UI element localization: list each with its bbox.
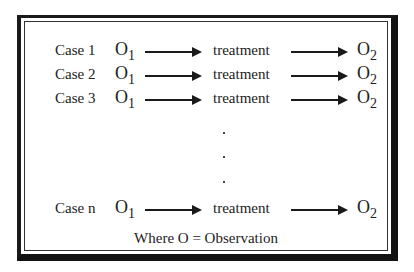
case-row-n: Case n O1 treatment O2 [25,200,387,222]
arrow-icon [291,209,346,211]
post-observation: O2 [357,87,377,112]
arrow-icon [145,75,200,77]
arrow-icon [145,209,200,211]
diagram-frame: Case 1 O1 treatment O2 Case 2 O1 treatme… [17,15,398,261]
case-row-2: Case 2 O1 treatment O2 [25,66,387,88]
treatment-label: treatment [213,42,270,59]
case-label: Case 1 [55,42,95,59]
case-label: Case 3 [55,90,95,107]
case-row-1: Case 1 O1 treatment O2 [25,42,387,64]
pre-observation: O1 [115,87,135,112]
post-observation: O2 [357,63,377,88]
case-label: Case n [55,200,95,217]
treatment-label: treatment [213,66,270,83]
arrow-icon [291,75,346,77]
ellipsis-dot [223,132,225,134]
case-label: Case 2 [55,66,95,83]
pre-observation: O1 [115,39,135,64]
post-observation: O2 [357,39,377,64]
post-observation: O2 [357,197,377,222]
pre-observation: O1 [115,197,135,222]
pre-observation: O1 [115,63,135,88]
arrow-icon [291,51,346,53]
legend-footnote: Where O = Observation [25,230,387,247]
arrow-icon [145,99,200,101]
ellipsis-dot [223,156,225,158]
treatment-label: treatment [213,200,270,217]
arrow-icon [145,51,200,53]
diagram-inner-frame: Case 1 O1 treatment O2 Case 2 O1 treatme… [24,21,388,251]
case-row-3: Case 3 O1 treatment O2 [25,90,387,112]
ellipsis-dot [223,181,225,183]
arrow-icon [291,99,346,101]
treatment-label: treatment [213,90,270,107]
